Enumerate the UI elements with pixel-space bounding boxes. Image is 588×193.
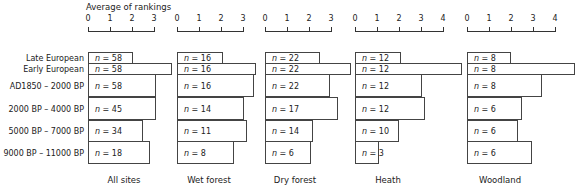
bar: n = 18 [88, 141, 150, 164]
axis-tick [132, 27, 133, 32]
bar: n = 12 [355, 74, 422, 97]
tick-label: 3 [240, 14, 245, 23]
panel-title: Heath [375, 175, 401, 185]
axis-tick [88, 27, 89, 32]
axis-tick [309, 27, 310, 32]
bar: n = 8 [467, 74, 542, 97]
row-label: 5000 BP – 7000 BP [8, 127, 84, 136]
axis-tick [154, 27, 155, 32]
tick-label: 0 [85, 14, 90, 23]
bar: n = 8 [177, 141, 234, 164]
panel-title: Woodland [479, 175, 521, 185]
axis-tick [287, 27, 288, 32]
bar: n = 6 [467, 120, 518, 142]
sample-size-label: n = 6 [272, 148, 294, 157]
tick-label: 2 [218, 14, 223, 23]
sample-size-label: n = 14 [184, 104, 211, 113]
bar: n = 3 [355, 141, 379, 164]
bar: n = 58 [88, 74, 156, 97]
bar: n = 14 [265, 120, 313, 142]
axis-tick [265, 27, 266, 32]
axis-tick [110, 27, 111, 32]
axis-tick [221, 27, 222, 32]
row-label: 9000 BP – 11000 BP [3, 148, 84, 157]
tick-label: 0 [174, 14, 179, 23]
axis-tick [331, 27, 332, 32]
tick-label: 3 [151, 14, 156, 23]
sample-size-label: n = 58 [95, 54, 122, 63]
sample-size-label: n = 8 [474, 81, 496, 90]
sample-size-label: n = 22 [272, 65, 299, 74]
axis-tick [399, 27, 400, 32]
tick-label: 1 [284, 14, 289, 23]
tick-label: 0 [262, 14, 267, 23]
bar: n = 11 [177, 120, 247, 142]
tick-label: 0 [464, 14, 469, 23]
row-label: Late European [26, 54, 84, 63]
panel-title: Wet forest [187, 175, 231, 185]
bar: n = 16 [177, 74, 254, 97]
sample-size-label: n = 8 [184, 148, 206, 157]
tick-label: 2 [396, 14, 401, 23]
sample-size-label: n = 45 [95, 104, 122, 113]
tick-label: 3 [418, 14, 423, 23]
sample-size-label: n = 16 [184, 54, 211, 63]
panel-title: All sites [107, 175, 140, 185]
sample-size-label: n = 17 [272, 104, 299, 113]
tick-label: 2 [508, 14, 513, 23]
sample-size-label: n = 10 [362, 127, 389, 136]
sample-size-label: n = 16 [184, 65, 211, 74]
tick-label: 1 [374, 14, 379, 23]
sample-size-label: n = 58 [95, 65, 122, 74]
row-label: 2000 BP – 4000 BP [8, 104, 84, 113]
sample-size-label: n = 34 [95, 127, 122, 136]
bar: n = 6 [467, 97, 522, 120]
axis-tick [243, 27, 244, 32]
sample-size-label: n = 6 [474, 127, 496, 136]
row-label: Early European [23, 65, 84, 74]
tick-label: 3 [530, 14, 535, 23]
sample-size-label: n = 3 [362, 148, 384, 157]
axis-tick [533, 27, 534, 32]
axis-tick [177, 27, 178, 32]
tick-label: 2 [306, 14, 311, 23]
tick-label: 1 [107, 14, 112, 23]
sample-size-label: n = 22 [272, 81, 299, 90]
row-label: AD1850 – 2000 BP [10, 81, 84, 90]
axis-tick [421, 27, 422, 32]
bar: n = 34 [88, 120, 143, 142]
bar: n = 10 [355, 120, 399, 142]
axis-tick [511, 27, 512, 32]
sample-size-label: n = 58 [95, 81, 122, 90]
axis-tick [377, 27, 378, 32]
bar: n = 45 [88, 97, 156, 120]
axis-tick [467, 27, 468, 32]
sample-size-label: n = 11 [184, 127, 211, 136]
tick-label: 4 [552, 14, 557, 23]
sample-size-label: n = 6 [474, 148, 496, 157]
axis-tick [489, 27, 490, 32]
tick-label: 1 [486, 14, 491, 23]
tick-label: 0 [352, 14, 357, 23]
axis-tick [355, 27, 356, 32]
sample-size-label: n = 14 [272, 127, 299, 136]
bar: n = 6 [467, 141, 532, 164]
tick-label: 1 [196, 14, 201, 23]
axis-tick [443, 27, 444, 32]
axis-tick [199, 27, 200, 32]
sample-size-label: n = 12 [362, 104, 389, 113]
bar: n = 17 [265, 97, 338, 120]
sample-size-label: n = 12 [362, 54, 389, 63]
sample-size-label: n = 12 [362, 81, 389, 90]
sample-size-label: n = 8 [474, 54, 496, 63]
tick-label: 2 [129, 14, 134, 23]
axis-tick [555, 27, 556, 32]
bar: n = 6 [265, 141, 311, 164]
sample-size-label: n = 22 [272, 54, 299, 63]
axis-line [88, 31, 154, 32]
tick-label: 3 [328, 14, 333, 23]
sample-size-label: n = 12 [362, 65, 389, 74]
axis-title: Average of rankings [86, 2, 171, 12]
axis-line [265, 31, 331, 32]
panel-title: Dry forest [274, 175, 316, 185]
